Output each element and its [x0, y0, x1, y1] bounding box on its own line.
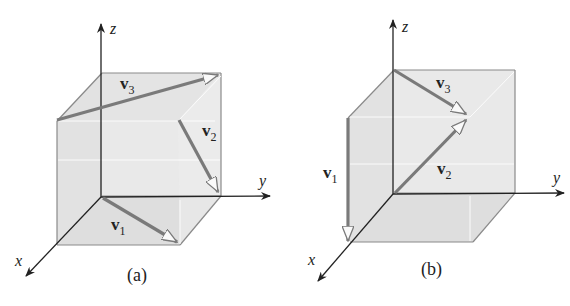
- panel-a: z y x v3 v2 v1 (a): [14, 20, 270, 286]
- panel-b: z y x v3 v2 v1 (b): [307, 18, 564, 281]
- z-axis-label: z: [401, 18, 409, 35]
- vector-cube-figure: z y x v3 v2 v1 (a): [0, 0, 570, 306]
- caption-b: (b): [421, 259, 442, 280]
- y-axis-label: y: [551, 169, 561, 187]
- v1-label-b: v1: [323, 163, 338, 186]
- z-axis-label: z: [109, 20, 117, 37]
- x-axis-label: x: [14, 252, 22, 269]
- x-axis-label: x: [307, 251, 315, 268]
- y-axis-label: y: [257, 172, 267, 190]
- caption-a: (a): [127, 265, 147, 286]
